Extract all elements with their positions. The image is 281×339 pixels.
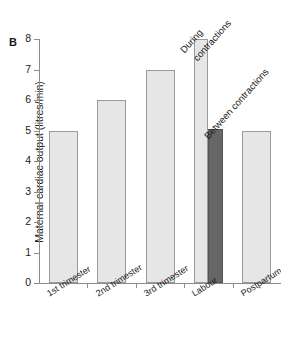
y-axis-line <box>39 39 40 284</box>
y-tick-2: 2 <box>34 222 39 223</box>
y-tick-7: 7 <box>34 70 39 71</box>
bar-labour-between-contractions <box>208 129 223 283</box>
x-tick-2 <box>136 284 137 288</box>
y-tick-5: 5 <box>34 131 39 132</box>
y-tick-label-7: 7 <box>25 63 31 75</box>
y-tick-6: 6 <box>34 100 39 101</box>
y-tick-label-3: 3 <box>25 185 31 197</box>
y-tick-8: 8 <box>34 39 39 40</box>
y-tick-label-2: 2 <box>25 215 31 227</box>
bar-postpartum <box>242 131 271 284</box>
bar-labour-during-contractions <box>194 39 209 283</box>
x-tick-4 <box>233 284 234 288</box>
panel-letter: B <box>9 36 17 48</box>
y-tick-label-8: 8 <box>25 32 31 44</box>
y-tick-0: 0 <box>34 283 39 284</box>
y-tick-label-6: 6 <box>25 93 31 105</box>
y-tick-3: 3 <box>34 192 39 193</box>
y-tick-label-4: 4 <box>25 154 31 166</box>
y-tick-label-1: 1 <box>25 246 31 258</box>
y-tick-label-0: 0 <box>25 276 31 288</box>
y-tick-1: 1 <box>34 253 39 254</box>
bar-1st-trimester <box>49 131 78 284</box>
bar-3rd-trimester <box>146 70 175 284</box>
x-tick-3 <box>184 284 185 288</box>
y-tick-label-5: 5 <box>25 124 31 136</box>
x-tick-1 <box>87 284 88 288</box>
bar-2nd-trimester <box>97 100 126 283</box>
plot-area: 012345678 <box>39 39 281 284</box>
figure-panel-b: B Maternal cardiac output (litres/min) 0… <box>0 0 281 339</box>
y-tick-4: 4 <box>34 161 39 162</box>
